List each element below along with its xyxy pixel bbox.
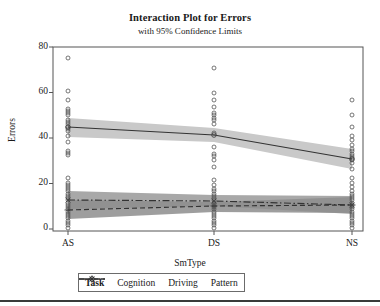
plot-canvas: [0, 0, 380, 306]
legend-item-driving[interactable]: Driving: [164, 278, 198, 288]
bottom-rule: [0, 300, 380, 302]
confidence-bands-group: [68, 118, 352, 219]
legend-label-pattern: Pattern: [211, 278, 238, 288]
legend-item-cognition[interactable]: Cognition: [113, 278, 155, 288]
legend-item-pattern[interactable]: Pattern: [207, 278, 238, 288]
confidence-band-cognition: [68, 118, 352, 169]
interaction-plot-figure: Interaction Plot for Errors with 95% Con…: [0, 0, 380, 306]
legend[interactable]: Task Cognition Driving Pattern: [78, 273, 245, 292]
legend-swatch-pattern: [79, 274, 105, 284]
legend-label-driving: Driving: [168, 278, 198, 288]
legend-label-cognition: Cognition: [117, 278, 155, 288]
